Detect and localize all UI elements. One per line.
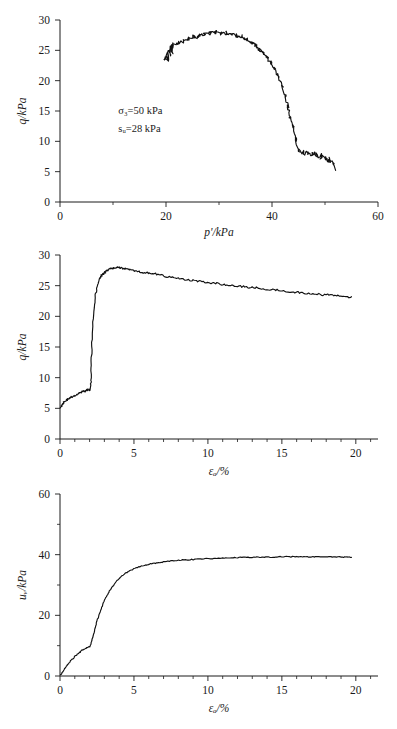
chart-pore-pressure: 051015200204060 εₐ/% uᵥ/kPa (0, 486, 397, 729)
ticks-1 (55, 20, 378, 207)
axis-title-y-2: q/kPa (16, 333, 29, 360)
svg-text:15: 15 (39, 341, 51, 353)
panel-stress-path: 0204060051015202530 σ₃=50 kPa sᵤ=28 kPa … (0, 0, 397, 243)
svg-text:20: 20 (350, 447, 362, 459)
ticks-3 (55, 494, 371, 681)
svg-text:10: 10 (39, 135, 51, 147)
svg-text:10: 10 (39, 372, 51, 384)
svg-text:40: 40 (39, 549, 51, 561)
chart-stress-path: 0204060051015202530 σ₃=50 kPa sᵤ=28 kPa … (0, 0, 397, 243)
svg-text:10: 10 (202, 447, 214, 459)
svg-text:0: 0 (44, 670, 50, 682)
panel-pore-pressure: 051015200204060 εₐ/% uᵥ/kPa (0, 486, 397, 729)
axis-title-x-2: εₐ/% (209, 465, 230, 477)
svg-text:30: 30 (39, 14, 51, 26)
svg-text:0: 0 (57, 684, 63, 696)
svg-text:15: 15 (276, 447, 288, 459)
svg-text:15: 15 (39, 105, 51, 117)
tick-labels-3: 051015200204060 (39, 488, 362, 696)
tick-labels-1: 0204060051015202530 (39, 14, 385, 222)
axis-title-y-1: q/kPa (16, 97, 29, 124)
svg-text:20: 20 (350, 684, 362, 696)
svg-text:60: 60 (372, 210, 384, 222)
annotation-confining-pressure: σ₃=50 kPa (118, 105, 162, 116)
svg-text:20: 20 (39, 609, 51, 621)
axis-title-y-3: uᵥ/kPa (16, 570, 28, 600)
svg-text:5: 5 (131, 447, 137, 459)
plot-area-3: 051015200204060 εₐ/% uᵥ/kPa (16, 488, 378, 714)
axis-title-x-1: p'/kPa (203, 226, 234, 239)
figure-container: 0204060051015202530 σ₃=50 kPa sᵤ=28 kPa … (0, 0, 397, 729)
svg-text:30: 30 (39, 249, 51, 261)
annotation-suction: sᵤ=28 kPa (118, 123, 161, 134)
svg-text:5: 5 (131, 684, 137, 696)
chart-deviator-stress: 05101520051015202530 εₐ/% q/kPa (0, 243, 397, 486)
svg-text:0: 0 (57, 447, 63, 459)
svg-text:5: 5 (44, 402, 50, 414)
ticks-2 (55, 255, 371, 444)
svg-text:40: 40 (266, 210, 278, 222)
svg-text:60: 60 (39, 488, 51, 500)
svg-text:5: 5 (44, 166, 50, 178)
series-stress-path (164, 31, 336, 171)
plot-area-2: 05101520051015202530 εₐ/% q/kPa (16, 249, 378, 477)
svg-text:0: 0 (44, 196, 50, 208)
svg-text:25: 25 (39, 280, 51, 292)
series-pore-pressure (61, 556, 352, 674)
axis-title-x-3: εₐ/% (209, 702, 230, 714)
svg-text:15: 15 (276, 684, 288, 696)
svg-text:20: 20 (160, 210, 172, 222)
panel-deviator-stress: 05101520051015202530 εₐ/% q/kPa (0, 243, 397, 486)
svg-text:10: 10 (202, 684, 214, 696)
plot-area-1: 0204060051015202530 σ₃=50 kPa sᵤ=28 kPa … (16, 14, 384, 239)
svg-text:25: 25 (39, 44, 51, 56)
svg-text:20: 20 (39, 75, 51, 87)
svg-text:0: 0 (44, 433, 50, 445)
svg-text:0: 0 (57, 210, 63, 222)
series-deviator-stress (60, 267, 351, 408)
svg-text:20: 20 (39, 310, 51, 322)
